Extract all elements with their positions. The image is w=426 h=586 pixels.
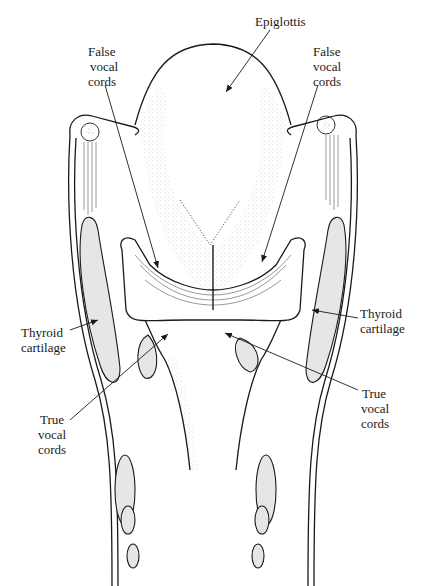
label-false-vocal-cords-right-3: cords [313,74,341,89]
label-true-vocal-cords-left-2: vocal [38,427,67,442]
larynx-diagram: Epiglottis False vocal cords False vocal… [0,0,426,586]
label-thyroid-cartilage-right-2: cartilage [360,321,405,336]
label-false-vocal-cords-left-1: False [88,44,116,59]
label-epiglottis: Epiglottis [255,14,306,29]
label-true-vocal-cords-right-2: vocal [361,401,390,416]
label-false-vocal-cords-left-3: cords [88,74,116,89]
label-false-vocal-cords-right-1: False [313,44,341,59]
epiglottis-shape [135,44,291,310]
label-true-vocal-cords-left-3: cords [38,442,66,457]
label-thyroid-cartilage-right-1: Thyroid [360,306,402,321]
label-true-vocal-cords-right-1: True [362,386,386,401]
label-false-vocal-cords-left-2: vocal [90,59,119,74]
label-thyroid-cartilage-left-2: cartilage [21,340,66,355]
label-true-vocal-cords-left-1: True [40,412,64,427]
label-true-vocal-cords-right-3: cords [361,416,389,431]
label-thyroid-cartilage-left-1: Thyroid [21,325,63,340]
label-false-vocal-cords-right-2: vocal [313,59,342,74]
